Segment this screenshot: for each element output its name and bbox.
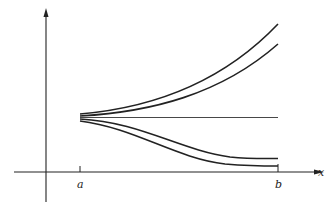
x-axis-label: x [318,166,325,179]
tick-label-a: a [77,178,84,191]
tick-label-b: b [275,178,282,191]
curve-1 [80,24,278,114]
curve-2 [80,44,278,116]
diagram-canvas: a b x [0,0,336,207]
y-axis-arrow-icon [44,8,49,17]
